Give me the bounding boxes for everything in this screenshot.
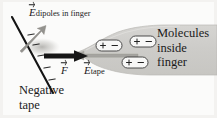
label-e-dipoles-symbol: E bbox=[29, 6, 36, 18]
label-negative-tape: Negative tape bbox=[19, 83, 64, 112]
label-e-tape-symbol: E bbox=[84, 64, 91, 76]
label-force: F bbox=[61, 65, 68, 77]
dipole-body bbox=[122, 57, 148, 68]
label-molecules-line1: Molecules bbox=[157, 26, 209, 41]
label-molecules-inside-finger: Molecules inside finger bbox=[157, 26, 209, 70]
label-e-dipoles: E dipoles in finger bbox=[29, 7, 90, 19]
dipole-capsule bbox=[130, 36, 156, 47]
charge-smudge bbox=[24, 38, 60, 56]
dipole-capsule bbox=[96, 40, 122, 51]
physics-figure: E dipoles in finger F E tape Molecules i… bbox=[0, 0, 217, 118]
label-force-symbol: F bbox=[61, 64, 68, 76]
dipole-capsule bbox=[122, 57, 148, 68]
vector-symbol-e-tape: E bbox=[84, 65, 91, 77]
label-e-tape-subscript: tape bbox=[91, 67, 105, 76]
label-molecules-line3: finger bbox=[157, 55, 209, 70]
label-negative-tape-line1: Negative bbox=[19, 83, 64, 98]
vector-symbol-f: F bbox=[61, 65, 68, 77]
dipole-body bbox=[96, 40, 122, 51]
label-e-tape: E tape bbox=[84, 65, 105, 77]
label-e-dipoles-subscript: dipoles in finger bbox=[36, 9, 91, 18]
label-molecules-line2: inside bbox=[157, 41, 209, 56]
label-negative-tape-line2: tape bbox=[19, 98, 64, 113]
dipole-body bbox=[130, 36, 156, 47]
vector-symbol-e-dipoles: E bbox=[29, 7, 36, 19]
